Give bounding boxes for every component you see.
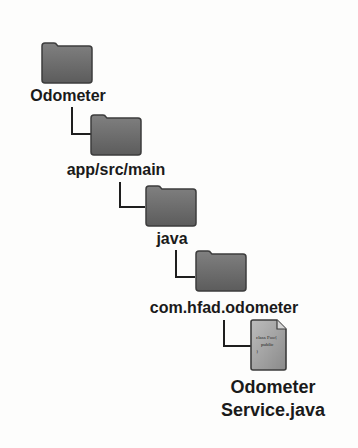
svg-text:public: public [261, 342, 274, 347]
folder-icon-java[interactable] [144, 185, 197, 227]
folder-label-com-hfad-odometer: com.hfad.odometer [126, 298, 322, 318]
tree-connector [223, 320, 251, 347]
file-label-line1: Odometer [218, 376, 328, 398]
folder-icon-com-hfad-odometer[interactable] [194, 250, 247, 292]
tree-connector [71, 107, 91, 135]
java-file-icon[interactable]: class Foo{ public } [248, 319, 288, 372]
file-label-line2: Service.java [208, 399, 338, 421]
folder-icon-odometer[interactable] [40, 42, 93, 84]
folder-label-odometer: Odometer [18, 86, 118, 106]
tree-connector [175, 250, 195, 278]
svg-text:}: } [256, 349, 258, 354]
tree-connector [119, 182, 145, 208]
folder-icon-app-src-main[interactable] [89, 114, 142, 156]
folder-label-java: java [142, 229, 202, 249]
folder-label-app-src-main: app/src/main [46, 160, 186, 180]
svg-text:class Foo{: class Foo{ [256, 335, 277, 340]
background-text [150, 2, 358, 112]
